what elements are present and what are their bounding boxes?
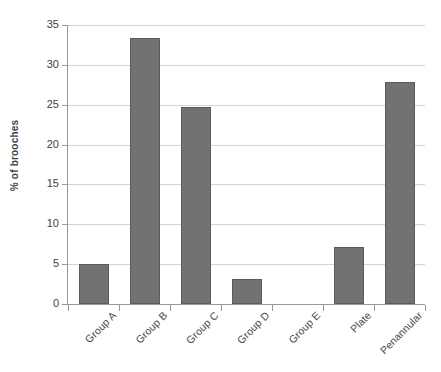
y-axis-tick-label: 20 — [19, 138, 59, 150]
bar — [79, 264, 109, 304]
y-axis-tick-label: 30 — [19, 58, 59, 70]
bar — [334, 247, 364, 304]
x-axis-label: Penannular — [377, 309, 424, 356]
x-axis-tick — [68, 305, 69, 311]
x-axis-tick — [425, 305, 426, 311]
bar — [130, 38, 160, 304]
x-axis-label: Plate — [348, 309, 374, 335]
bar — [385, 82, 415, 304]
y-axis-tick-label: 0 — [19, 297, 59, 309]
gridline — [68, 304, 425, 305]
x-axis-label: Group C — [183, 309, 220, 346]
y-axis-tick-label: 10 — [19, 217, 59, 229]
x-axis-tick — [221, 305, 222, 311]
y-axis-tick-label: 5 — [19, 257, 59, 269]
x-axis-tick — [323, 305, 324, 311]
y-axis-tick-label: 25 — [19, 98, 59, 110]
x-axis-label: Group A — [82, 309, 118, 345]
x-axis-tick — [119, 305, 120, 311]
y-axis-tick-label: 15 — [19, 177, 59, 189]
bar — [232, 279, 262, 304]
x-axis-tick — [170, 305, 171, 311]
bar — [181, 107, 211, 304]
bar-chart: % of brooches 05101520253035 Group AGrou… — [0, 0, 441, 372]
y-axis-tick-label: 35 — [19, 18, 59, 30]
x-axis-tick — [272, 305, 273, 311]
x-axis-label: Group B — [133, 309, 170, 346]
plot-area — [68, 25, 425, 304]
x-axis-tick — [374, 305, 375, 311]
x-axis-label: Group E — [286, 309, 323, 346]
x-axis-label: Group D — [234, 309, 271, 346]
